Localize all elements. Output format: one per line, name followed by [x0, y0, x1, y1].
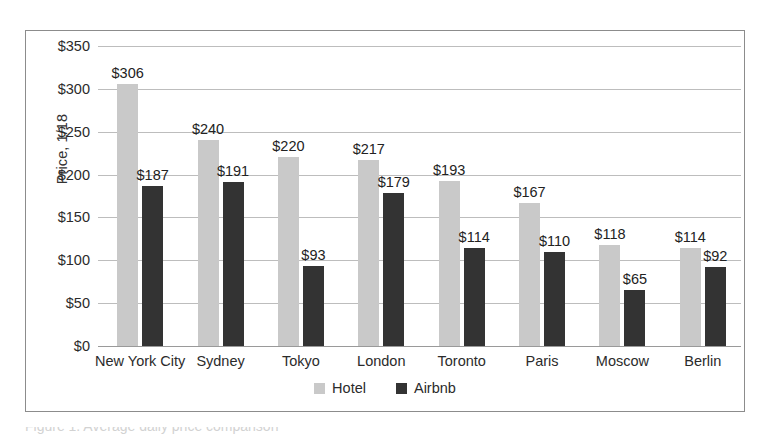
bar-group: $114$92Berlin — [680, 46, 726, 346]
y-axis-tick-label: $0 — [74, 338, 90, 354]
bar-group: $193$114Toronto — [439, 46, 485, 346]
clipped-caption-text: Figure 1. Average daily price comparison — [25, 427, 445, 434]
bar-value-label: $191 — [217, 163, 249, 179]
y-axis-tick-label: $250 — [58, 124, 90, 140]
x-axis-category-label: Moscow — [596, 353, 649, 369]
x-axis-category-label: Paris — [526, 353, 559, 369]
x-axis-category-label: Berlin — [684, 353, 721, 369]
y-axis-tick-label: $200 — [58, 167, 90, 183]
bar-hotel[interactable]: $193 — [439, 181, 460, 346]
bar-hotel[interactable]: $306 — [117, 84, 138, 346]
y-axis-tick-label: $350 — [58, 38, 90, 54]
bar-value-label: $220 — [272, 138, 304, 154]
bar-value-label: $114 — [675, 229, 706, 245]
bar-value-label: $167 — [513, 184, 545, 200]
bar-value-label: $217 — [353, 141, 385, 157]
chart-legend: HotelAirbnb — [26, 380, 744, 396]
bar-airbnb[interactable]: $191 — [223, 182, 244, 346]
bar-value-label: $65 — [623, 271, 647, 287]
bar-value-label: $114 — [459, 229, 490, 245]
bar-group: $306$187New York City — [117, 46, 163, 346]
legend-item[interactable]: Hotel — [314, 380, 366, 396]
legend-item[interactable]: Airbnb — [396, 380, 456, 396]
bar-airbnb[interactable]: $187 — [142, 186, 163, 346]
bar-group: $167$110Paris — [519, 46, 565, 346]
y-axis-tick-label: $150 — [58, 209, 90, 225]
bar-group: $240$191Sydney — [198, 46, 244, 346]
bar-hotel[interactable]: $220 — [278, 157, 299, 346]
bar-value-label: $193 — [433, 162, 465, 178]
bar-airbnb[interactable]: $65 — [624, 290, 645, 346]
y-axis-tick-label: $100 — [58, 252, 90, 268]
bar-group: $217$179London — [358, 46, 404, 346]
x-axis-category-label: New York City — [95, 353, 185, 369]
bar-value-label: $93 — [301, 247, 325, 263]
bar-airbnb[interactable]: $93 — [303, 266, 324, 346]
bar-value-label: $306 — [112, 65, 144, 81]
bar-hotel[interactable]: $114 — [680, 248, 701, 346]
y-axis-tick-label: $50 — [66, 295, 90, 311]
clipped-caption: Figure 1. Average daily price comparison — [25, 427, 445, 440]
bar-hotel[interactable]: $167 — [519, 203, 540, 346]
y-axis-tick-label: $300 — [58, 81, 90, 97]
bar-hotel[interactable]: $240 — [198, 140, 219, 346]
bar-value-label: $179 — [378, 174, 410, 190]
bar-airbnb[interactable]: $92 — [705, 267, 726, 346]
bar-airbnb[interactable]: $179 — [383, 193, 404, 346]
bar-value-label: $187 — [137, 167, 169, 183]
bar-value-label: $110 — [539, 233, 570, 249]
bar-hotel[interactable]: $118 — [599, 245, 620, 346]
x-axis-category-label: Tokyo — [282, 353, 320, 369]
legend-label: Airbnb — [414, 380, 456, 396]
bar-value-label: $92 — [703, 248, 727, 264]
bar-airbnb[interactable]: $114 — [464, 248, 485, 346]
bar-value-label: $118 — [594, 226, 625, 242]
bars-layer: $306$187New York City$240$191Sydney$220$… — [98, 46, 741, 346]
gridline — [98, 346, 741, 347]
bar-value-label: $240 — [192, 121, 224, 137]
legend-swatch-icon — [314, 383, 325, 394]
legend-label: Hotel — [332, 380, 366, 396]
bar-airbnb[interactable]: $110 — [544, 252, 565, 346]
bar-group: $118$65Moscow — [599, 46, 645, 346]
bar-group: $220$93Tokyo — [278, 46, 324, 346]
chart-frame: Price, 1/18 $350$300$250$200$150$100$50$… — [25, 30, 745, 412]
x-axis-category-label: London — [357, 353, 405, 369]
x-axis-category-label: Sydney — [196, 353, 244, 369]
legend-swatch-icon — [396, 383, 407, 394]
x-axis-category-label: Toronto — [438, 353, 486, 369]
plot-area: $350$300$250$200$150$100$50$0 $306$187Ne… — [98, 46, 741, 346]
bar-hotel[interactable]: $217 — [358, 160, 379, 346]
